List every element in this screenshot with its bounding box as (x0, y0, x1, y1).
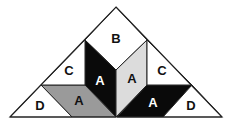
label-c-left: C (64, 63, 74, 78)
label-a-right-light: A (127, 71, 137, 86)
label-d-left: D (35, 98, 44, 113)
triangle-diagram: BAAAACCDD (0, 0, 227, 122)
label-a-left-black: A (95, 73, 105, 88)
label-c-right: C (157, 63, 167, 78)
label-a-bottom-black: A (148, 95, 158, 110)
label-b: B (111, 31, 120, 46)
label-d-right: D (186, 98, 195, 113)
label-a-bottom-gray: A (74, 93, 84, 108)
diagram-canvas: BAAAACCDD (0, 0, 227, 122)
